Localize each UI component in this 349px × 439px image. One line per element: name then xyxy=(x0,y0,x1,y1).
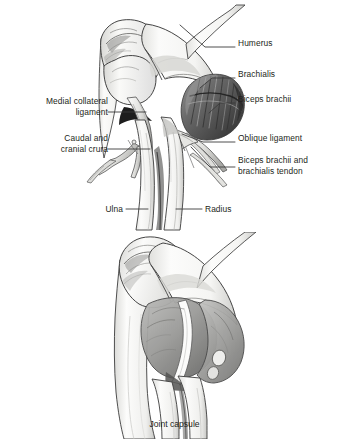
label-oblique-ligament: Oblique ligament xyxy=(238,133,302,144)
label-caudal-cranial-crura: Caudal and cranial crura xyxy=(8,133,108,154)
brachialis-biceps-muscle-mass xyxy=(181,74,244,140)
label-radius: Radius xyxy=(205,204,232,215)
label-brachialis: Brachialis xyxy=(238,69,275,80)
label-humerus: Humerus xyxy=(238,38,273,49)
figure-top-elbow-dissection: Humerus Brachialis Biceps brachii Obliqu… xyxy=(0,0,349,232)
label-medial-collateral-ligament: Medial collateral ligament xyxy=(8,96,108,117)
joint-capsule-illustration xyxy=(0,232,349,439)
caption-joint-capsule: Joint capsule xyxy=(0,419,349,429)
interosseous-space xyxy=(154,146,164,230)
label-biceps-brachialis-tendon: Biceps brachii and brachialis tendon xyxy=(238,155,308,176)
figure-bottom-joint-capsule: Joint capsule xyxy=(0,232,349,439)
label-biceps-brachii: Biceps brachii xyxy=(238,94,291,105)
label-ulna: Ulna xyxy=(79,204,123,215)
